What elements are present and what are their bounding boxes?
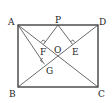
geometry-diagram: A D B C P O F E G <box>0 0 112 103</box>
label-p: P <box>55 15 61 25</box>
label-a: A <box>7 17 15 27</box>
segment-pe <box>58 25 72 44</box>
label-d: D <box>99 17 106 27</box>
segment-ag <box>18 25 45 64</box>
label-f: F <box>40 47 46 57</box>
label-g: G <box>46 66 53 76</box>
segment-pf <box>44 25 58 44</box>
label-c: C <box>98 89 105 99</box>
label-o: O <box>54 45 61 55</box>
label-b: B <box>9 89 16 99</box>
label-e: E <box>72 47 79 57</box>
